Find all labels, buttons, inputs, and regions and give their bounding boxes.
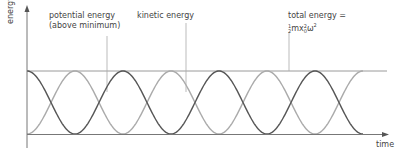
total-energy-formula: 1 2 mx20ω2 xyxy=(288,20,346,34)
potential-energy-label: potential energy (above minimum) xyxy=(49,11,120,31)
total-energy-label: total energy = 1 2 mx20ω2 xyxy=(288,11,346,34)
y-axis-label: energy xyxy=(6,0,15,24)
potential-label-line2: (above minimum) xyxy=(49,21,120,31)
x-axis-arrow-icon xyxy=(382,132,389,137)
kinetic-energy-label: kinetic energy xyxy=(137,11,194,21)
formula-omega: ω xyxy=(307,24,314,33)
formula-mx: mx xyxy=(291,24,304,33)
y-axis-arrow-icon xyxy=(25,5,30,12)
formula-exp2: 2 xyxy=(314,22,317,28)
potential-energy-curve xyxy=(27,71,363,134)
x-axis-label: time xyxy=(376,140,394,150)
potential-label-line1: potential energy xyxy=(49,11,120,21)
